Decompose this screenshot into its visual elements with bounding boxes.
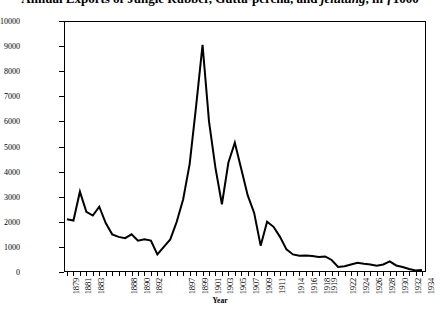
x-tick-label: 1926 <box>374 278 384 294</box>
x-tick-mark <box>390 272 391 276</box>
x-tick-mark <box>306 272 307 276</box>
x-tick-mark <box>86 272 87 276</box>
x-tick-mark <box>209 272 210 276</box>
x-tick-mark <box>222 272 223 276</box>
x-tick-label: 1901 <box>213 278 223 294</box>
x-tick-mark <box>119 272 120 276</box>
y-tick-label: 8000 <box>4 67 20 76</box>
y-tick-mark <box>59 222 64 223</box>
y-tick-label: 10000 <box>0 17 20 26</box>
x-tick-mark <box>235 272 236 276</box>
x-tick-label: 1911 <box>277 278 287 294</box>
x-tick-mark <box>93 272 94 276</box>
x-tick-mark <box>274 272 275 276</box>
x-tick-mark <box>370 272 371 276</box>
x-tick-mark <box>364 272 365 276</box>
x-tick-label: 1890 <box>142 278 152 294</box>
x-tick-mark <box>416 272 417 276</box>
x-tick-mark <box>203 272 204 276</box>
y-tick-label: 3000 <box>4 192 20 201</box>
x-tick-mark <box>67 272 68 276</box>
x-tick-mark <box>190 272 191 276</box>
y-tick-mark <box>59 121 64 122</box>
x-tick-label: 1905 <box>238 278 248 294</box>
x-tick-mark <box>99 272 100 276</box>
x-tick-mark <box>280 272 281 276</box>
x-tick-label: 1881 <box>83 278 93 294</box>
x-tick-label: 1883 <box>96 278 106 294</box>
x-tick-mark <box>144 272 145 276</box>
x-tick-mark <box>254 272 255 276</box>
y-tick-mark <box>59 96 64 97</box>
y-tick-label: 2000 <box>4 217 20 226</box>
y-tick-label: 0 <box>16 268 20 277</box>
y-tick-label: 7000 <box>4 92 20 101</box>
x-tick-mark <box>351 272 352 276</box>
x-tick-label: 1932 <box>413 278 423 294</box>
y-tick-label: 6000 <box>4 117 20 126</box>
x-tick-mark <box>241 272 242 276</box>
y-tick-label: 4000 <box>4 167 20 176</box>
x-tick-mark <box>312 272 313 276</box>
x-tick-mark <box>183 272 184 276</box>
y-tick-mark <box>59 272 64 273</box>
x-tick-mark <box>357 272 358 276</box>
x-tick-label: 1916 <box>309 278 319 294</box>
x-tick-mark <box>157 272 158 276</box>
x-tick-mark <box>403 272 404 276</box>
x-tick-label: 1914 <box>296 278 306 294</box>
x-tick-mark <box>125 272 126 276</box>
x-tick-label: 1897 <box>187 278 197 294</box>
x-tick-mark <box>177 272 178 276</box>
x-tick-label: 1922 <box>348 278 358 294</box>
x-tick-label: 1930 <box>400 278 410 294</box>
x-tick-mark <box>106 272 107 276</box>
x-tick-mark <box>261 272 262 276</box>
y-tick-mark <box>59 172 64 173</box>
x-tick-mark <box>138 272 139 276</box>
y-tick-mark <box>59 147 64 148</box>
x-tick-mark <box>248 272 249 276</box>
x-tick-mark <box>286 272 287 276</box>
x-tick-mark <box>396 272 397 276</box>
chart-title-italic-term: jelutung <box>321 0 366 6</box>
chart-title-after-italic: , in ƒ1000 <box>366 0 419 6</box>
chart-figure: Annual Exports of Jungle Rubber, Gutta-p… <box>0 0 440 310</box>
x-tick-mark <box>80 272 81 276</box>
data-line-series <box>64 21 426 272</box>
x-tick-label: 1903 <box>225 278 235 294</box>
x-tick-label: 1934 <box>426 278 436 294</box>
series-polyline <box>67 45 422 271</box>
x-tick-mark <box>196 272 197 276</box>
x-tick-label: 1888 <box>129 278 139 294</box>
x-tick-mark <box>293 272 294 276</box>
x-tick-mark <box>422 272 423 276</box>
chart-title: Annual Exports of Jungle Rubber, Gutta-p… <box>0 0 440 7</box>
x-tick-label: 1879 <box>71 278 81 294</box>
x-tick-label: 1899 <box>200 278 210 294</box>
x-tick-label: 1892 <box>154 278 164 294</box>
y-tick-mark <box>59 197 64 198</box>
x-tick-label: 1928 <box>387 278 397 294</box>
y-tick-mark <box>59 21 64 22</box>
y-tick-label: 5000 <box>4 142 20 151</box>
x-tick-mark <box>332 272 333 276</box>
x-tick-mark <box>338 272 339 276</box>
x-tick-mark <box>112 272 113 276</box>
x-tick-mark <box>299 272 300 276</box>
y-tick-label: 9000 <box>4 42 20 51</box>
x-tick-label: 1909 <box>264 278 274 294</box>
x-tick-mark <box>377 272 378 276</box>
x-tick-label: 1919 <box>329 278 339 294</box>
y-axis: 0100020003000400050006000700080009000100… <box>0 0 62 310</box>
x-tick-label: 1907 <box>251 278 261 294</box>
x-tick-mark <box>325 272 326 276</box>
x-tick-mark <box>215 272 216 276</box>
x-tick-mark <box>345 272 346 276</box>
x-tick-mark <box>73 272 74 276</box>
x-tick-mark <box>228 272 229 276</box>
x-tick-mark <box>319 272 320 276</box>
x-axis-title: Year <box>190 296 250 305</box>
x-tick-label: 1924 <box>361 278 371 294</box>
x-tick-mark <box>170 272 171 276</box>
